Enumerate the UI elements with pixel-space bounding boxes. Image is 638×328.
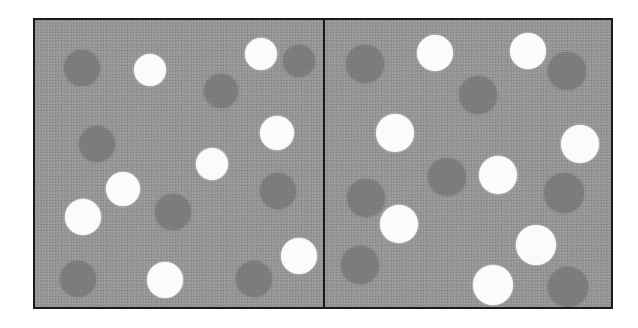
left-panel: [35, 20, 323, 307]
panel-pair-container: [33, 18, 613, 309]
dark-dot: [283, 45, 315, 77]
dark-dot: [204, 74, 238, 108]
white-dot: [473, 265, 513, 305]
white-dot: [245, 38, 277, 70]
dark-dot: [64, 50, 100, 86]
white-dot: [134, 54, 166, 86]
white-dot: [196, 148, 228, 180]
white-dot: [260, 116, 294, 150]
white-dot: [380, 205, 418, 243]
white-dot: [516, 225, 556, 265]
dark-dot: [236, 261, 272, 297]
white-dot: [417, 35, 453, 71]
dark-dot: [260, 173, 296, 209]
white-dot: [561, 125, 599, 163]
dark-dot: [428, 158, 466, 196]
dark-dot: [459, 76, 497, 114]
white-dot: [147, 262, 183, 298]
dark-dot: [548, 267, 588, 307]
white-dot: [65, 199, 101, 235]
dark-dot: [544, 173, 584, 213]
dark-dot: [341, 246, 379, 284]
right-panel: [325, 20, 611, 307]
white-dot: [281, 238, 317, 274]
dark-dot: [347, 179, 385, 217]
dark-dot: [60, 261, 96, 297]
dark-dot: [155, 194, 191, 230]
white-dot: [510, 33, 546, 69]
stimulus-figure: [0, 0, 638, 328]
dark-dot: [548, 52, 586, 90]
white-dot: [479, 156, 517, 194]
dark-dot: [346, 45, 384, 83]
white-dot: [106, 172, 140, 206]
dark-dot: [79, 126, 115, 162]
white-dot: [376, 114, 414, 152]
